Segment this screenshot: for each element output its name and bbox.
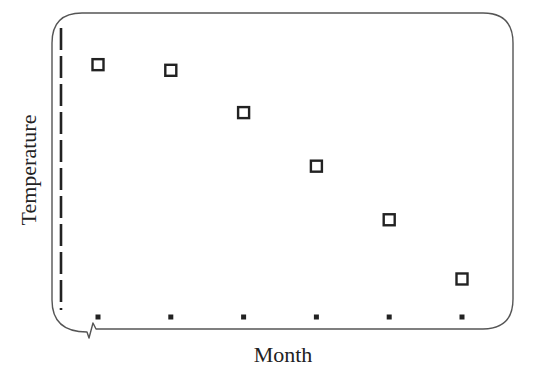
x-tick-dot bbox=[241, 315, 246, 320]
x-tick-dot bbox=[460, 315, 465, 320]
data-point-square-marker bbox=[457, 273, 468, 284]
x-tick-marks bbox=[96, 315, 465, 320]
x-tick-dot bbox=[387, 315, 392, 320]
data-points bbox=[93, 59, 468, 284]
x-tick-dot bbox=[314, 315, 319, 320]
x-axis-label: Month bbox=[254, 342, 313, 367]
y-axis-label: Temperature bbox=[16, 115, 41, 226]
plot-frame bbox=[52, 13, 513, 338]
data-point-square-marker bbox=[93, 59, 104, 70]
x-tick-dot bbox=[96, 315, 101, 320]
data-point-square-marker bbox=[384, 214, 395, 225]
data-point-square-marker bbox=[165, 65, 176, 76]
data-point-square-marker bbox=[238, 107, 249, 118]
data-point-square-marker bbox=[311, 161, 322, 172]
chart: Temperature Month bbox=[0, 0, 544, 371]
x-tick-dot bbox=[168, 315, 173, 320]
